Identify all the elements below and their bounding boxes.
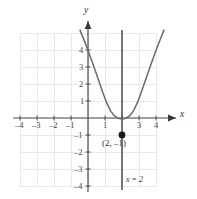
coordinate-plane-svg [0, 0, 197, 199]
x-axis-label: x [180, 110, 184, 120]
y-tick-label-3: 3 [79, 63, 83, 72]
graph-figure: –4 –3 –2 –1 1 3 4 4 3 2 1 –1 –2 –3 –4 x … [0, 0, 197, 199]
x-axis-arrow [168, 115, 176, 122]
y-tick-label-neg3: –3 [74, 165, 83, 174]
y-tick-label-2: 2 [79, 80, 83, 89]
y-tick-label-neg4: –4 [74, 182, 83, 191]
y-tick-label-1: 1 [80, 97, 84, 106]
x-tick-label-neg1: –1 [66, 121, 75, 130]
axis-of-symmetry-label: x = 2 [126, 176, 143, 184]
y-tick-label-neg1: –1 [74, 131, 83, 140]
x-tick-label-4: 4 [154, 121, 158, 130]
x-tick-label-3: 3 [137, 121, 141, 130]
x-tick-label-1: 1 [103, 121, 107, 130]
y-axis-label: y [84, 6, 88, 16]
vertex-label: (2, –1) [102, 139, 126, 148]
x-tick-label-neg4: –4 [15, 121, 24, 130]
y-axis-arrow [85, 21, 92, 29]
x-tick-label-neg2: –2 [49, 121, 58, 130]
x-tick-label-neg3: –3 [32, 121, 41, 130]
y-tick-label-neg2: –2 [74, 148, 83, 157]
y-tick-label-4: 4 [79, 46, 83, 55]
